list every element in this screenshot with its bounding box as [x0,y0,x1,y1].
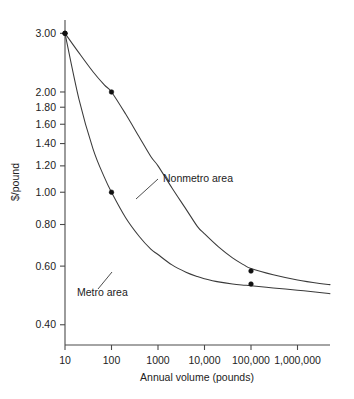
data-point-marker [63,31,68,36]
y-tick-label: 1.00 [36,186,57,198]
x-tick-label: 10,000 [188,354,220,366]
metro-area-label: Metro area [77,286,128,298]
x-tick-label: 1000 [146,354,170,366]
y-tick-label: 1.80 [36,101,57,113]
y-tick-label: 1.40 [36,137,57,149]
x-tick-label: 100,000 [232,354,270,366]
x-axis-title: Annual volume (pounds) [140,371,254,383]
y-tick-label: 3.00 [36,27,57,39]
line-chart-canvas: 3.002.001.801.601.401.201.000.800.600.40… [0,0,354,399]
chart-background [0,0,354,399]
y-tick-label: 1.60 [36,118,57,130]
x-tick-label: 1,000,000 [274,354,321,366]
data-point-marker [249,282,254,287]
nonmetro-area-label: Nonmetro area [163,172,233,184]
data-point-marker [249,269,254,274]
y-tick-label: 0.60 [36,260,57,272]
data-point-marker [109,90,114,95]
y-tick-label: 1.20 [36,159,57,171]
x-tick-label: 100 [103,354,121,366]
x-tick-label: 10 [59,354,71,366]
y-tick-label: 2.00 [36,86,57,98]
chart-figure: 3.002.001.801.601.401.201.000.800.600.40… [0,0,354,399]
y-tick-label: 0.80 [36,218,57,230]
y-axis-title: $/pound [9,163,21,201]
data-point-marker [109,190,114,195]
y-tick-label: 0.40 [36,318,57,330]
